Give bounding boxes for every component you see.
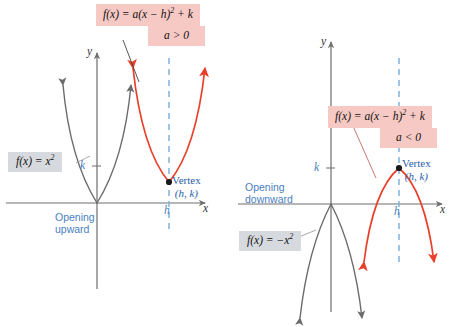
parent-function-text-right: f(x) = −x (247, 234, 289, 246)
y-axis-label-right: y (321, 35, 326, 47)
x-axis-label-right: x (440, 203, 445, 215)
parent-function-text-left: f(x) = x (16, 155, 51, 167)
vertex-form-tail-left: + k (174, 8, 193, 20)
x-axis-label-left: x (203, 202, 208, 214)
opening-direction-line2-left: upward (55, 223, 95, 235)
h-tick-label-left: h (164, 204, 170, 216)
condition-callout-right: a < 0 (380, 128, 437, 148)
opening-direction-line1-right: Opening (245, 181, 293, 193)
vertex-label-left: Vertex (h, k) (172, 174, 201, 199)
panel-opening-upward: f(x) = a(x − h)2 + k a > 0 f(x) = x2 Ope… (0, 0, 227, 327)
vertex-form-text-right: f(x) = a(x − h) (335, 110, 402, 122)
h-tick-label-right: h (394, 205, 400, 217)
opening-direction-label-right: Opening downward (245, 181, 293, 205)
callout-leader-left (123, 40, 139, 82)
y-axis-label-left: y (87, 45, 92, 57)
panel-opening-downward: f(x) = a(x − h)2 + k a < 0 f(x) = −x2 Op… (228, 0, 455, 327)
k-tick-label-right: k (314, 161, 319, 173)
opening-direction-label-left: Opening upward (55, 211, 95, 235)
vertex-form-callout-left: f(x) = a(x − h)2 + k (96, 4, 200, 26)
parent-function-callout-left: f(x) = x2 (8, 152, 62, 172)
parent-function-exponent-left: 2 (51, 153, 55, 162)
quadratic-vertex-form-figure: f(x) = a(x − h)2 + k a > 0 f(x) = x2 Ope… (0, 0, 455, 327)
vertex-form-callout-right: f(x) = a(x − h)2 + k (328, 106, 432, 128)
parent-function-callout-right: f(x) = −x2 (239, 231, 301, 251)
parent-function-exponent-right: 2 (289, 232, 293, 241)
condition-text-right: a < 0 (396, 131, 421, 143)
opening-direction-line1-left: Opening (55, 211, 95, 223)
vertex-word-right: Vertex (402, 157, 431, 170)
vertex-form-tail-right: + k (406, 110, 425, 122)
callout-leader-right (353, 126, 376, 178)
vertex-word-left: Vertex (172, 174, 201, 187)
k-tick-label-left: k (80, 159, 85, 171)
opening-direction-line2-right: downward (245, 193, 293, 205)
condition-callout-left: a > 0 (148, 26, 205, 46)
vertex-coords-left: (h, k) (172, 187, 201, 200)
vertex-coords-right: (h, k) (402, 170, 431, 183)
vertex-label-right: Vertex (h, k) (402, 157, 431, 182)
vertex-form-text-left: f(x) = a(x − h) (103, 8, 170, 20)
condition-text-left: a > 0 (164, 29, 189, 41)
